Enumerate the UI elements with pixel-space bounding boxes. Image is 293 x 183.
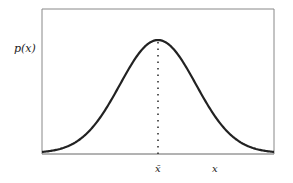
y-axis-label: p(x) [14, 42, 36, 55]
density-curve [42, 40, 274, 152]
mean-label: x̄ [155, 163, 161, 174]
x-axis-label: x [212, 163, 218, 174]
bell-curve-figure: p(x) x̄ x [0, 0, 293, 183]
